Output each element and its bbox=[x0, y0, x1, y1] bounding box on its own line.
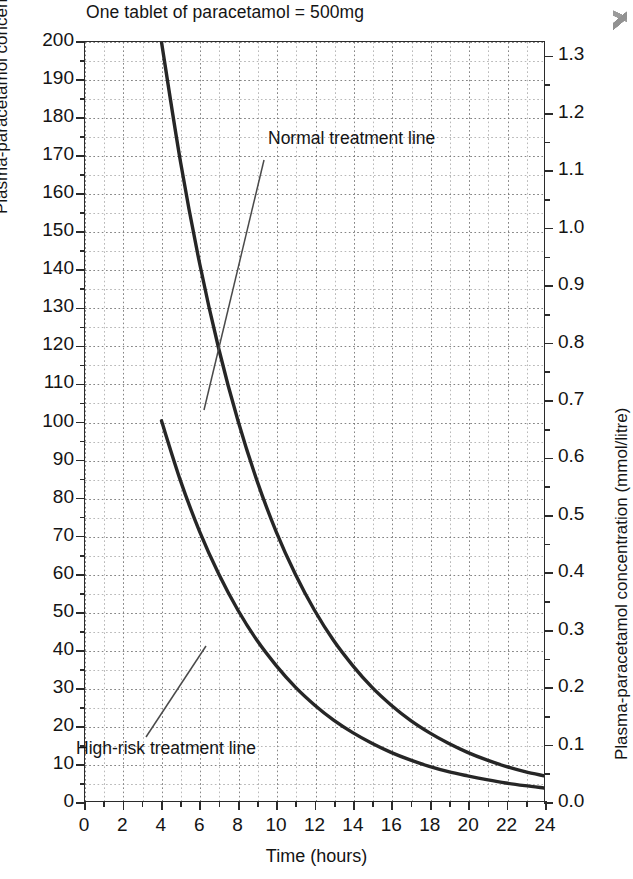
y-tick-label-left: 120 bbox=[14, 333, 74, 355]
y-tick-right-minor bbox=[544, 716, 550, 718]
x-tick-label: 10 bbox=[256, 814, 296, 836]
y-tick-label-right: 0.7 bbox=[558, 388, 618, 410]
curve-layer bbox=[85, 42, 544, 800]
x-tick-minor bbox=[411, 801, 413, 807]
y-tick-right bbox=[544, 228, 553, 230]
x-tick-label: 8 bbox=[218, 814, 258, 836]
y-tick-right-minor bbox=[544, 773, 550, 775]
x-tick-minor bbox=[103, 801, 105, 807]
y-tick-label-right: 0.9 bbox=[558, 273, 618, 295]
y-tick-right bbox=[544, 745, 553, 747]
y-tick-label-left: 90 bbox=[14, 448, 74, 470]
y-tick-label-left: 40 bbox=[14, 638, 74, 660]
y-tick-label-left: 50 bbox=[14, 600, 74, 622]
x-tick-minor bbox=[449, 801, 451, 807]
y-tick-label-left: 100 bbox=[14, 410, 74, 432]
y-tick-label-right: 0.2 bbox=[558, 675, 618, 697]
y-tick-left bbox=[76, 688, 85, 690]
y-tick-left bbox=[76, 193, 85, 195]
x-tick-label: 14 bbox=[333, 814, 373, 836]
y-tick-left bbox=[76, 117, 85, 119]
y-tick-right bbox=[544, 515, 553, 517]
x-tick-label: 0 bbox=[64, 814, 104, 836]
x-tick-minor bbox=[257, 801, 259, 807]
x-tick-label: 4 bbox=[141, 814, 181, 836]
y-tick-label-right: 0.3 bbox=[558, 618, 618, 640]
y-tick-label-left: 110 bbox=[14, 371, 74, 393]
x-tick bbox=[123, 801, 125, 810]
x-tick bbox=[430, 801, 432, 810]
x-tick-minor bbox=[488, 801, 490, 807]
x-tick bbox=[353, 801, 355, 810]
y-tick-left bbox=[76, 764, 85, 766]
y-tick-right bbox=[544, 170, 553, 172]
x-axis-title: Time (hours) bbox=[0, 846, 633, 867]
x-tick-minor bbox=[334, 801, 336, 807]
y-tick-right bbox=[544, 572, 553, 574]
y-tick-label-left: 200 bbox=[14, 29, 74, 51]
y-tick-label-left: 20 bbox=[14, 714, 74, 736]
x-tick-minor bbox=[142, 801, 144, 807]
x-tick-minor bbox=[219, 801, 221, 807]
x-tick bbox=[468, 801, 470, 810]
y-tick-right bbox=[544, 285, 553, 287]
y-tick-left bbox=[76, 574, 85, 576]
y-tick-label-left: 190 bbox=[14, 67, 74, 89]
y-tick-right-minor bbox=[544, 601, 550, 603]
y-tick-right bbox=[544, 630, 553, 632]
plot-area bbox=[84, 41, 545, 802]
y-tick-label-right: 0.1 bbox=[558, 733, 618, 755]
y-tick-label-right: 1.2 bbox=[558, 101, 618, 123]
y-tick-label-right: 0.4 bbox=[558, 560, 618, 582]
annotation-normal-treatment-line: Normal treatment line bbox=[268, 128, 435, 149]
y-tick-right-minor bbox=[544, 371, 550, 373]
y-tick-right-minor bbox=[544, 314, 550, 316]
annotation-high-risk-treatment-line: High-risk treatment line bbox=[76, 738, 256, 759]
y-axis-title-left: Plasma-paracetamol concentration (mg/lit… bbox=[0, 0, 12, 214]
x-tick bbox=[238, 801, 240, 810]
x-tick-label: 16 bbox=[371, 814, 411, 836]
y-tick-left bbox=[76, 384, 85, 386]
y-tick-label-left: 60 bbox=[14, 562, 74, 584]
y-tick-left bbox=[76, 41, 85, 43]
y-tick-right bbox=[544, 687, 553, 689]
y-tick-label-right: 0.6 bbox=[558, 445, 618, 467]
y-tick-label-left: 150 bbox=[14, 219, 74, 241]
y-axis-title-right: Plasma-paracetamol concentration (mmol/l… bbox=[612, 280, 632, 760]
y-tick-left bbox=[76, 612, 85, 614]
scan-artifact bbox=[613, 6, 627, 36]
y-tick-label-left: 70 bbox=[14, 524, 74, 546]
x-tick bbox=[315, 801, 317, 810]
y-tick-label-left: 30 bbox=[14, 676, 74, 698]
y-tick-label-left: 80 bbox=[14, 486, 74, 508]
y-tick-right-minor bbox=[544, 257, 550, 259]
y-tick-label-left: 10 bbox=[14, 752, 74, 774]
x-tick-minor bbox=[180, 801, 182, 807]
curve-normal-treatment-line bbox=[161, 42, 543, 776]
x-tick-minor bbox=[526, 801, 528, 807]
y-tick-right-minor bbox=[544, 486, 550, 488]
y-tick-label-right: 1.3 bbox=[558, 43, 618, 65]
y-tick-right bbox=[544, 343, 553, 345]
y-tick-left bbox=[76, 536, 85, 538]
y-tick-label-right: 0.8 bbox=[558, 331, 618, 353]
y-tick-label-left: 180 bbox=[14, 105, 74, 127]
y-tick-left bbox=[76, 269, 85, 271]
x-tick-minor bbox=[372, 801, 374, 807]
y-tick-left bbox=[76, 155, 85, 157]
y-tick-right bbox=[544, 113, 553, 115]
y-tick-label-left: 140 bbox=[14, 257, 74, 279]
y-tick-right-minor bbox=[544, 544, 550, 546]
y-tick-label-left: 160 bbox=[14, 181, 74, 203]
y-tick-left bbox=[76, 346, 85, 348]
y-tick-right-minor bbox=[544, 199, 550, 201]
y-tick-left bbox=[76, 726, 85, 728]
y-tick-left bbox=[76, 498, 85, 500]
y-tick-label-right: 1.0 bbox=[558, 216, 618, 238]
y-tick-label-left: 0 bbox=[14, 790, 74, 812]
y-tick-left bbox=[76, 308, 85, 310]
x-tick-minor bbox=[295, 801, 297, 807]
x-tick bbox=[545, 801, 547, 810]
y-tick-label-left: 170 bbox=[14, 143, 74, 165]
y-tick-left bbox=[76, 650, 85, 652]
